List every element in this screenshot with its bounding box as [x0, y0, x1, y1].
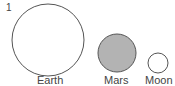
mars-label: Mars [104, 74, 128, 86]
mars-circle [98, 34, 136, 72]
moon-circle [148, 53, 168, 73]
earth-label: Earth [37, 74, 63, 86]
moon-label: Moon [145, 74, 173, 86]
earth-circle [12, 4, 84, 76]
